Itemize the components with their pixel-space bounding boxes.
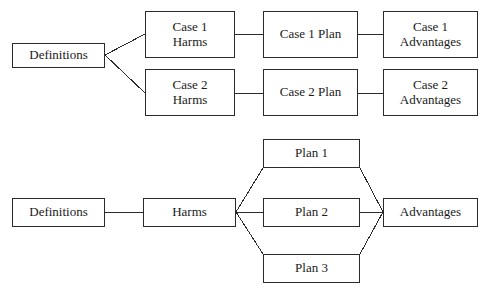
node-case2-harms[interactable]: Case 2Harms — [145, 69, 235, 116]
node-label: Case 1 — [413, 20, 448, 35]
connector-top-definitions-to-case1-harms — [105, 34, 145, 55]
node-label: Advantages — [400, 93, 461, 108]
node-label: Case 2 — [172, 78, 207, 93]
node-label: Plan 2 — [295, 205, 328, 220]
connector-plan-3-to-bottom-advantages — [360, 212, 383, 254]
node-case2-plan[interactable]: Case 2 Plan — [263, 69, 358, 116]
node-bottom-harms[interactable]: Harms — [143, 198, 236, 227]
connector-top-definitions-to-case2-harms — [105, 55, 145, 93]
node-top-definitions[interactable]: Definitions — [12, 43, 105, 68]
node-plan-2[interactable]: Plan 2 — [263, 198, 360, 227]
diagram-canvas: DefinitionsCase 1HarmsCase 2HarmsCase 1 … — [0, 0, 485, 289]
node-label: Definitions — [29, 205, 88, 220]
node-label: Plan 3 — [295, 261, 328, 276]
connector-bottom-harms-to-plan-3 — [236, 212, 263, 254]
node-bottom-advantages[interactable]: Advantages — [383, 198, 478, 227]
node-label: Harms — [172, 205, 207, 220]
node-plan-3[interactable]: Plan 3 — [263, 254, 360, 283]
node-label: Plan 1 — [295, 146, 328, 161]
node-case1-harms[interactable]: Case 1Harms — [145, 11, 235, 58]
connector-bottom-harms-to-plan-1 — [236, 168, 263, 212]
connector-plan-1-to-bottom-advantages — [360, 168, 383, 212]
node-bottom-definitions[interactable]: Definitions — [12, 198, 105, 227]
node-case2-advantages[interactable]: Case 2Advantages — [383, 69, 478, 116]
node-label: Case 1 — [172, 20, 207, 35]
node-label: Case 1 Plan — [280, 27, 341, 42]
node-case1-advantages[interactable]: Case 1Advantages — [383, 11, 478, 58]
node-label: Case 2 — [413, 78, 448, 93]
node-label: Definitions — [29, 48, 88, 63]
node-plan-1[interactable]: Plan 1 — [263, 139, 360, 168]
node-label: Advantages — [400, 205, 461, 220]
node-label: Harms — [173, 93, 208, 108]
node-label: Advantages — [400, 35, 461, 50]
node-case1-plan[interactable]: Case 1 Plan — [263, 11, 358, 58]
node-label: Case 2 Plan — [280, 85, 341, 100]
node-label: Harms — [173, 35, 208, 50]
